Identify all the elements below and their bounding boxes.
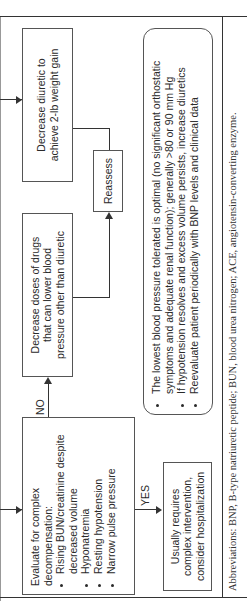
evaluate-list: Rising BUN/creatinine despite decreased …: [54, 426, 117, 586]
flowchart-page: Decrease diuretic to achieve 2-lb weight…: [0, 0, 247, 601]
arrow-head-icon: [105, 212, 113, 219]
frame-left-border: [0, 597, 247, 598]
connector-doses-across: [109, 218, 110, 298]
note-box: The lowest blood pressure tolerated is o…: [143, 28, 213, 415]
note-list: The lowest blood pressure tolerated is o…: [150, 37, 200, 406]
yes-label: YES: [139, 485, 152, 506]
yes-arrow-line: [135, 509, 157, 510]
evaluate-heading: Evaluate for complex decompensation:: [29, 426, 54, 586]
evaluate-item: Rising BUN/creatinine despite decreased …: [54, 426, 79, 574]
no-label: NO: [34, 399, 47, 415]
connector-doses-down: [73, 297, 109, 298]
no-arrow-line: [48, 383, 49, 417]
usually-requires-text: Usually requires complex intervention, c…: [169, 463, 207, 590]
evaluate-box: Evaluate for complex decompensation: Ris…: [22, 417, 135, 595]
decrease-doses-text: Decrease doses of drugs that can lower b…: [29, 214, 67, 376]
decrease-diuretic-box: Decrease diuretic to achieve 2-lb weight…: [22, 28, 73, 182]
arrow-head-icon: [44, 377, 52, 384]
decrease-doses-box: Decrease doses of drugs that can lower b…: [22, 213, 73, 377]
evaluate-item: Narrow pulse pressure: [105, 426, 118, 574]
note-item: Reevaluate patient periodically with BNP…: [188, 37, 201, 394]
abbreviations-footer: Abbreviations: BNP, B-type natriuretic p…: [227, 21, 238, 591]
note-item: The lowest blood pressure tolerated is o…: [150, 37, 175, 394]
evaluate-item: Hyponatremia: [79, 426, 92, 574]
evaluate-item: Resting hypotension: [92, 426, 105, 574]
footer-divider: [222, 17, 223, 598]
reassess-text: Reassess: [102, 158, 115, 204]
note-item: If hypotension resolves and excess volum…: [175, 37, 188, 394]
frame-right-border: [0, 16, 247, 17]
usually-requires-box: Usually requires complex intervention, c…: [163, 462, 212, 591]
reassess-box: Reassess: [93, 150, 123, 212]
connector-diuretic-down: [73, 128, 109, 129]
arrow-head-icon: [156, 506, 162, 514]
decrease-diuretic-text: Decrease diuretic to achieve 2-lb weight…: [35, 29, 60, 181]
frame-top-border: [0, 17, 1, 601]
